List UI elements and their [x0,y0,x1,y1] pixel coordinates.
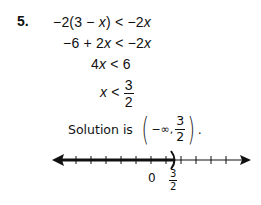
label-zero: 0 [148,171,156,185]
number-line [0,0,261,205]
label-three-halves: 32 [169,169,177,192]
